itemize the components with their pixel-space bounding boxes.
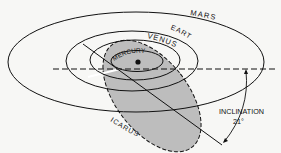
- sun-dot: [135, 59, 140, 64]
- inclination-arc: [223, 69, 248, 143]
- inclination-label: INCLINATION: [219, 107, 264, 116]
- inclination-value: 21°: [233, 117, 244, 126]
- icarus-orbit-diagram: MARS EARTH VENUS MERCURY ICARUS INCLINAT…: [0, 0, 281, 153]
